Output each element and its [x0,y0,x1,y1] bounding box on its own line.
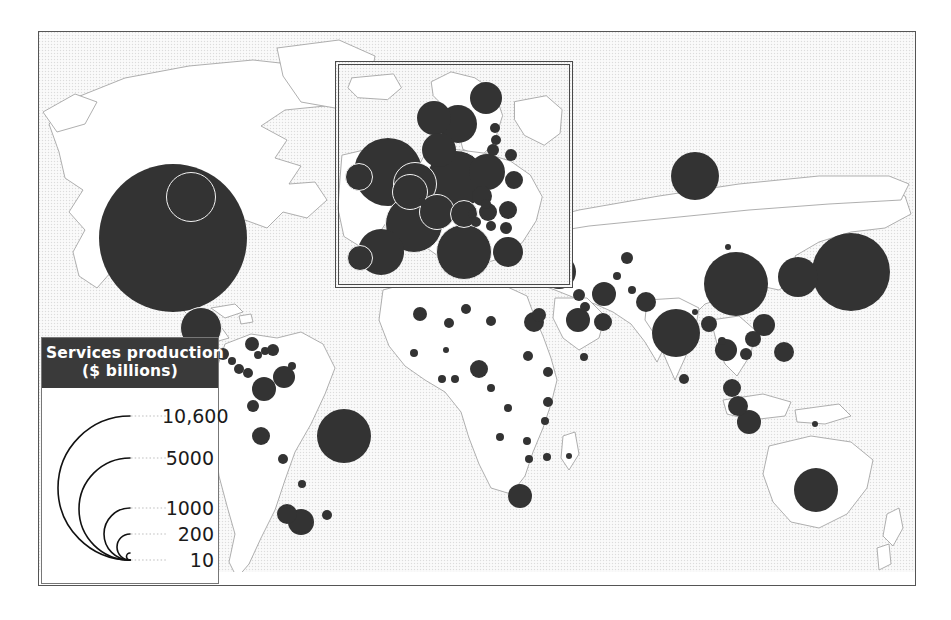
symbol-cuba [245,337,259,351]
symbol-paraguay [298,480,306,488]
symbol-uzbekistan [613,272,621,280]
symbol-latvia [491,135,501,145]
symbol-yemen [580,353,588,361]
symbol-chile [277,504,297,524]
symbol-dr-congo [504,404,512,412]
symbol-ireland [345,163,373,191]
symbol-vietnam [740,348,752,360]
figure-root: Services production ($ billions) [0,0,951,620]
symbol-denmark [422,133,456,167]
symbol-poland [469,154,505,190]
symbol-hong-kong [745,331,761,347]
symbol-angola [496,433,504,441]
symbol-lithuania [487,144,499,156]
symbol-colombia [252,377,276,401]
symbol-bolivia [278,454,288,464]
symbol-senegal [410,349,418,357]
symbol-china [704,252,768,316]
symbol-tanzania [541,417,549,425]
legend-title: Services production ($ billions) [42,338,218,388]
symbol-trinidad [288,362,296,370]
symbol-ukraine [505,171,523,189]
symbol-japan [812,233,890,311]
symbol-estonia [490,123,500,133]
symbol-ghana [451,375,459,383]
symbol-norway [417,101,451,135]
symbol-india [652,309,700,357]
symbol-malaysia [723,379,741,397]
legend-label-5000: 5000 [162,447,214,469]
legend-label-10600: 10,600 [162,405,214,427]
legend-arc-10 [127,553,130,560]
symbol-south-korea [778,257,818,297]
symbol-zimbabwe [525,455,533,463]
symbol-uruguay [322,510,332,520]
legend-scale: 10,600 5000 1000 200 10 [42,388,218,576]
symbol-peru [252,427,270,445]
symbol-south-africa [508,484,532,508]
legend-title-line1: Services production [46,344,214,362]
symbol-algeria [444,318,454,328]
symbol-morocco [413,307,427,321]
symbol-papua-new-guinea [812,421,818,427]
symbol-russia [671,152,719,200]
symbol-luxembourg [418,198,426,206]
symbol-mozambique [543,453,551,461]
symbol-libya [486,316,496,326]
legend-title-line2: ($ billions) [46,362,214,380]
symbol-panama [243,368,253,378]
symbol-romania [499,201,517,219]
symbol-iraq [573,289,585,301]
symbol-nepal [692,309,698,315]
symbol-iran [592,282,616,306]
symbol-singapore [728,396,748,416]
legend-label-1000: 1000 [162,497,214,519]
symbol-ecuador [247,400,259,412]
symbol-jamaica [254,351,262,359]
symbol-honduras [228,357,236,365]
legend: Services production ($ billions) [41,337,219,584]
symbol-ethiopia [543,367,553,377]
world-map-frame: Services production ($ billions) [38,31,916,586]
symbol-haiti [261,347,269,355]
symbol-mali [443,347,449,353]
symbol-canada [166,172,216,222]
symbol-australia [794,468,838,512]
symbol-afghanistan [628,286,636,294]
symbol-madagascar [566,453,572,459]
symbol-mongolia [725,244,731,250]
symbol-zambia [523,437,531,445]
symbol-greece [493,237,523,267]
symbol-kenya [543,397,553,407]
symbol-philippines [774,342,794,362]
symbol-bulgaria [500,222,512,234]
symbol-kuwait [580,302,590,312]
symbol-sudan [523,351,533,361]
symbol-slovenia [468,210,476,218]
europe-inset-box [335,61,573,288]
symbol-serbia [486,221,496,231]
symbol-cameroon [487,384,495,392]
symbol-pakistan [636,292,656,312]
symbol-slovakia [481,199,491,209]
symbol-brazil [317,409,371,463]
symbol-tunisia [461,304,471,314]
symbol-kazakhstan [621,252,633,264]
symbol-italy [436,224,492,280]
symbol-sri-lanka [679,374,689,384]
symbol-portugal [347,245,373,271]
symbol-nigeria [470,360,488,378]
legend-label-200: 200 [162,523,214,545]
symbol-myanmar [718,337,726,345]
symbol-cote-d-ivoire [438,375,446,383]
symbol-bangladesh [701,316,717,332]
legend-arc-200 [117,534,130,560]
symbol-finland [470,82,502,114]
symbol-united-arab-emirates [594,313,612,331]
symbol-belarus [505,149,517,161]
symbol-croatia [471,217,481,227]
legend-label-10: 10 [162,549,214,571]
symbol-israel [532,308,546,322]
